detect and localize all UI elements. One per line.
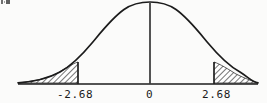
scan-artifact-speck [4,1,5,3]
scan-artifact-speck [6,0,10,4]
left-tail-shaded-region [14,55,82,85]
axis-label-zero: 0 [146,89,153,100]
normal-distribution-figure: -2.68 0 2.68 [0,0,267,103]
axis-label-positive-critical-value: 2.68 [202,89,231,100]
scan-artifact-speck [1,0,3,4]
axis-label-negative-critical-value: -2.68 [57,89,93,100]
